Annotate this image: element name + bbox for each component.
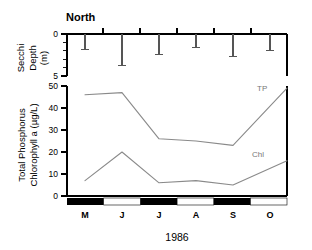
secchi-axis-title-line3: (m) — [38, 51, 49, 65]
secchi-axis-title-line1: Secchi — [15, 44, 26, 73]
month-label-3: A — [193, 210, 200, 220]
month-block-a — [177, 198, 214, 205]
series-line-tp — [85, 88, 287, 145]
month-label-4: S — [230, 210, 236, 220]
nutrients-axis-title-line2: Chlorophyll a (µg/L) — [28, 103, 39, 186]
month-bar — [67, 198, 287, 205]
month-label-5: O — [266, 210, 273, 220]
secchi-ytick-label-0: 0 — [53, 29, 58, 39]
month-block-s — [214, 198, 251, 205]
month-block-o — [251, 198, 288, 205]
secchi-bars — [81, 34, 274, 65]
chart-svg: North Secchi Depth (m) 0 5 — [0, 0, 312, 250]
nutrients-ytick-label-40: 40 — [49, 103, 59, 113]
month-label-1: J — [119, 210, 124, 220]
nutrients-ytick-label-0: 0 — [53, 191, 58, 201]
series-label-chl: Chl — [252, 150, 264, 159]
secchi-panel: North Secchi Depth (m) 0 5 — [15, 11, 287, 81]
nutrients-ytick-label-20: 20 — [49, 147, 59, 157]
nutrients-ytick-label-30: 30 — [49, 125, 59, 135]
nutrients-panel: Total Phosphorus Chlorophyll a (µg/L) 50… — [16, 81, 287, 201]
month-block-j2 — [140, 198, 177, 205]
x-axis-title: 1986 — [165, 231, 189, 243]
month-label-0: M — [81, 210, 89, 220]
secchi-ytick-label-5: 5 — [53, 71, 58, 81]
month-block-j1 — [104, 198, 141, 205]
month-labels: M J J A S O — [81, 210, 273, 220]
month-label-2: J — [156, 210, 161, 220]
secchi-axis-title-line2: Depth — [27, 45, 38, 70]
nutrients-axis-title-line1: Total Phosphorus — [16, 108, 27, 182]
series-label-tp: TP — [257, 84, 267, 93]
figure-container: North Secchi Depth (m) 0 5 — [0, 0, 312, 250]
nutrients-ytick-label-10: 10 — [49, 169, 59, 179]
nutrients-ytick-label-50: 50 — [49, 81, 59, 91]
month-block-m — [67, 198, 104, 205]
panel-title: North — [66, 11, 96, 23]
